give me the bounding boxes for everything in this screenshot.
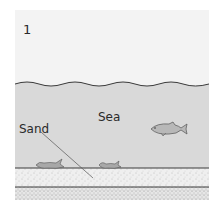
scene-drawing — [15, 10, 209, 200]
sand-layer-upper — [15, 168, 209, 187]
sand-label: Sand — [19, 123, 49, 135]
sea-label: Sea — [98, 111, 120, 123]
diagram-panel: 1 Sea Sand — [15, 10, 209, 200]
panel-number: 1 — [23, 23, 31, 36]
sand-layer-lower — [15, 187, 209, 200]
